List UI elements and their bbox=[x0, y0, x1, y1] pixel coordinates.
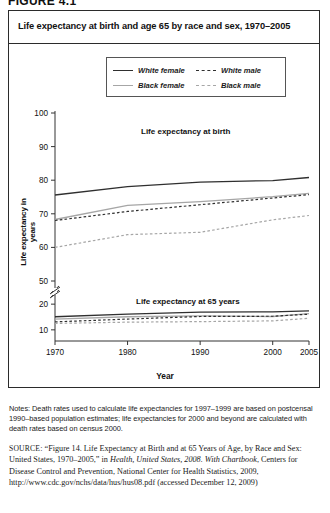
svg-text:90: 90 bbox=[39, 143, 49, 152]
legend-label: Black male bbox=[221, 81, 261, 90]
figure-notes: Notes: Death rates used to calculate lif… bbox=[9, 404, 321, 434]
annotation-upper: Life expectancy at birth bbox=[141, 127, 230, 136]
source-italic-1: Health, United States, 2008. With Chartb… bbox=[110, 455, 257, 464]
plot-area: Life expectancy in years 506070809010010… bbox=[9, 103, 321, 389]
legend-swatch-black-male-icon bbox=[196, 85, 216, 86]
legend-label: Black female bbox=[138, 81, 184, 90]
legend-swatch-black-female-icon bbox=[113, 85, 133, 86]
svg-text:70: 70 bbox=[39, 210, 49, 219]
svg-text:100: 100 bbox=[34, 109, 48, 118]
legend-item-black-female: Black female bbox=[113, 81, 196, 90]
figure-page: FIGURE 4.1 Life expectancy at birth and … bbox=[0, 0, 330, 513]
figure-source: SOURCE: “Figure 14. Life Expectancy at B… bbox=[9, 443, 321, 488]
legend-swatch-white-female-icon bbox=[113, 70, 133, 71]
svg-text:20: 20 bbox=[39, 300, 49, 309]
x-axis-label: Year bbox=[9, 371, 321, 381]
title-divider bbox=[9, 43, 319, 44]
figure-number: FIGURE 4.1 bbox=[8, 0, 76, 8]
legend-item-white-female: White female bbox=[113, 66, 196, 75]
legend-swatch-white-male-icon bbox=[196, 70, 216, 71]
svg-text:2005: 2005 bbox=[300, 348, 319, 357]
svg-text:10: 10 bbox=[39, 326, 49, 335]
svg-text:1980: 1980 bbox=[118, 348, 137, 357]
legend-item-white-male: White male bbox=[196, 66, 279, 75]
source-tag: SOURCE bbox=[9, 444, 40, 453]
svg-text:60: 60 bbox=[39, 243, 49, 252]
svg-text:80: 80 bbox=[39, 176, 49, 185]
annotation-lower: Life expectancy at 65 years bbox=[136, 297, 240, 306]
chart-panel: Life expectancy at birth and age 65 by r… bbox=[8, 10, 320, 388]
svg-text:50: 50 bbox=[39, 277, 49, 286]
legend-row: Black female Black male bbox=[113, 78, 279, 93]
legend-label: White female bbox=[138, 66, 185, 75]
panel-title: Life expectancy at birth and age 65 by r… bbox=[18, 20, 312, 32]
legend-item-black-male: Black male bbox=[196, 81, 279, 90]
chart-svg: 5060708090100102019701980199020002005 bbox=[9, 103, 321, 369]
svg-text:2000: 2000 bbox=[264, 348, 283, 357]
chart-legend: White female White male Black female Bla… bbox=[106, 57, 286, 97]
svg-text:1990: 1990 bbox=[191, 348, 210, 357]
legend-label: White male bbox=[221, 66, 261, 75]
svg-text:1970: 1970 bbox=[46, 348, 65, 357]
legend-row: White female White male bbox=[113, 63, 279, 78]
